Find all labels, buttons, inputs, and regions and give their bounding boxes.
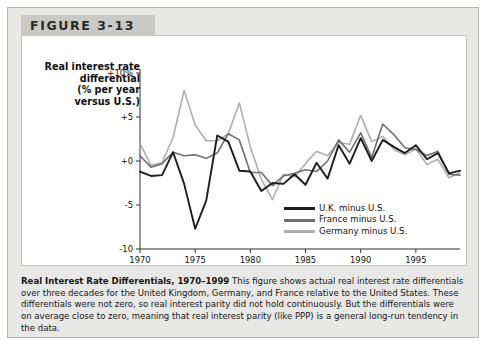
x-tick-label: 1995 — [405, 255, 426, 265]
legend-label-germany: Germany minus U.S. — [319, 226, 407, 237]
y-tick-label: +10% — [107, 68, 133, 78]
figure-frame: FIGURE 3-13 Real interest rate different… — [7, 7, 479, 338]
x-tick-label: 1975 — [185, 255, 206, 265]
figure-header-band: FIGURE 3-13 — [21, 15, 155, 35]
legend-item-germany: Germany minus U.S. — [284, 226, 407, 237]
y-tick-label: +0 — [121, 156, 133, 166]
series-line-france — [140, 124, 460, 186]
figure-caption: Real Interest Rate Differentials, 1970–1… — [21, 276, 467, 335]
series-line-germany — [140, 91, 460, 200]
figure-number-label: FIGURE 3-13 — [21, 18, 135, 33]
y-tick-label: +5 — [121, 112, 133, 122]
x-tick-label: 1980 — [240, 255, 261, 265]
legend-swatch-france-icon — [284, 219, 315, 222]
legend-swatch-germany-icon — [284, 230, 315, 233]
x-tick-label: 1970 — [129, 255, 150, 265]
x-tick-label: 1990 — [350, 255, 371, 265]
legend-item-france: France minus U.S. — [284, 214, 407, 225]
chart-panel: Real interest rate differential (% per y… — [21, 35, 467, 266]
legend-item-uk: U.K. minus U.S. — [284, 203, 407, 214]
chart-legend: U.K. minus U.S. France minus U.S. German… — [284, 203, 407, 237]
legend-label-france: France minus U.S. — [319, 214, 396, 225]
caption-title: Real Interest Rate Differentials, 1970–1… — [21, 276, 229, 286]
y-tick-label: -10 — [119, 244, 133, 254]
legend-label-uk: U.K. minus U.S. — [319, 203, 385, 214]
y-tick-label: -5 — [125, 200, 133, 210]
legend-swatch-uk-icon — [284, 207, 315, 210]
x-tick-label: 1985 — [295, 255, 316, 265]
